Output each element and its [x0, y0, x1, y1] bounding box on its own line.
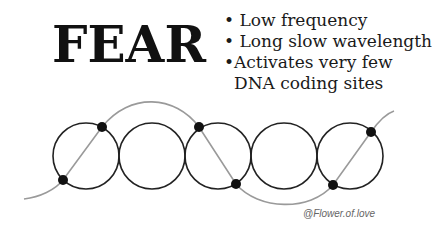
credit-watermark: @Flower.of.love	[303, 208, 375, 219]
intersection-dot	[328, 180, 338, 190]
intersection-dot	[194, 122, 204, 132]
intersection-dot	[366, 127, 376, 137]
intersection-dot	[231, 179, 241, 189]
intersection-dot	[97, 122, 107, 132]
intersection-dot	[58, 175, 68, 185]
circle-4	[251, 123, 317, 189]
circle-2	[119, 123, 185, 189]
